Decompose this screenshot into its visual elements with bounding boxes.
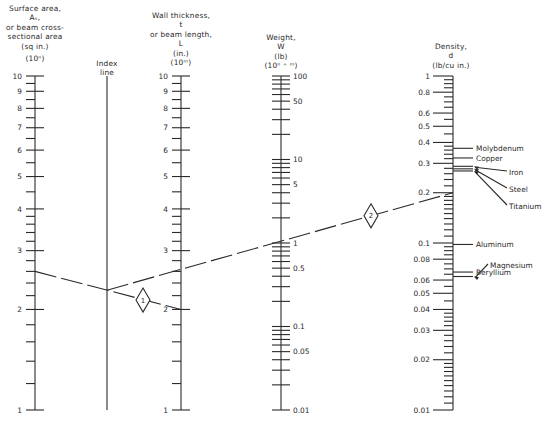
- density-tick-label: 0.3: [418, 159, 430, 168]
- surface-area-tick-label: 6: [17, 146, 22, 155]
- material-arrow-iron: [475, 167, 507, 171]
- density-tick-label: 0.4: [418, 138, 430, 147]
- surface-area-tick-label: 10: [13, 72, 23, 81]
- material-arrow-titanium: [475, 172, 507, 205]
- weight-tick-label: 0.01: [293, 406, 310, 415]
- surface-area-tick-label: 8: [17, 104, 22, 113]
- density-tick-label: 0.5: [418, 122, 430, 131]
- arrowhead-icon: [474, 277, 479, 281]
- surface-area-tick-label: 5: [17, 172, 22, 181]
- weight-tick-label: 50: [293, 97, 303, 106]
- density-tick-label: 0.06: [414, 276, 431, 285]
- wall-thickness-tick-label: 4: [163, 205, 168, 214]
- wall-thickness-tick-label: 1: [163, 406, 168, 415]
- material-label-copper: Copper: [476, 154, 504, 163]
- material-label-iron: Iron: [509, 168, 524, 177]
- wall-thickness-tick-label: 10: [159, 72, 169, 81]
- example-line-2: [107, 193, 453, 290]
- density-tick-label: 0.04: [414, 305, 431, 314]
- surface-area-tick-label: 9: [17, 87, 22, 96]
- wall-thickness-tick-label: 9: [163, 87, 168, 96]
- nomogram: 12345678910123456789100.010.050.10.51510…: [0, 0, 552, 423]
- density-tick-label: 0.03: [414, 326, 431, 335]
- wall-thickness-tick-label: 7: [163, 123, 168, 132]
- surface-area-tick-label: 7: [17, 123, 22, 132]
- material-label-aluminum: Aluminum: [476, 240, 514, 249]
- step-marker-2: 2: [364, 204, 378, 228]
- material-label-molybdenum: Molybdenum: [476, 144, 524, 153]
- density-tick-label: 0.8: [418, 88, 430, 97]
- step-number: 1: [141, 297, 145, 305]
- weight-tick-label: 0.5: [293, 264, 305, 273]
- density-tick-label: 1: [425, 72, 430, 81]
- surface-area-tick-label: 3: [17, 246, 22, 255]
- wall-thickness-tick-label: 3: [163, 246, 168, 255]
- wall-thickness-tick-label: 8: [163, 104, 168, 113]
- density-tick-label: 0.1: [418, 239, 430, 248]
- surface-area-tick-label: 1: [17, 406, 22, 415]
- density-tick-label: 0.2: [418, 188, 430, 197]
- step-number: 2: [369, 212, 373, 220]
- density-tick-label: 0.01: [414, 406, 431, 415]
- surface-area-tick-label: 2: [17, 305, 22, 314]
- wall-thickness-tick-label: 5: [163, 172, 168, 181]
- material-label-titanium: Titanium: [508, 202, 541, 211]
- surface-area-tick-label: 4: [17, 205, 22, 214]
- weight-tick-label: 10: [293, 155, 303, 164]
- density-tick-label: 0.05: [414, 289, 431, 298]
- material-label-magnesium: Magnesium: [490, 261, 533, 270]
- material-arrow-steel: [475, 170, 507, 188]
- density-tick-label: 0.08: [414, 255, 431, 264]
- wall-thickness-tick-label: 6: [163, 146, 168, 155]
- step-marker-1: 1: [136, 288, 150, 312]
- weight-tick-label: 0.1: [293, 322, 305, 331]
- weight-tick-label: 100: [293, 72, 307, 81]
- weight-tick-label: 0.05: [293, 347, 310, 356]
- weight-tick-label: 5: [293, 180, 298, 189]
- weight-tick-label: 1: [293, 239, 298, 248]
- density-tick-label: 0.02: [414, 355, 430, 364]
- density-tick-label: 0.6: [418, 109, 430, 118]
- material-label-steel: Steel: [509, 185, 528, 194]
